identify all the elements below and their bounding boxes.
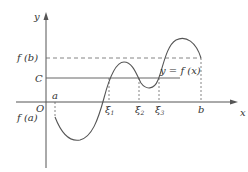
xi1-label: ξ1 (105, 104, 114, 116)
xi2-label: ξ2 (135, 104, 145, 116)
y-axis-label: y (33, 11, 40, 22)
curve-label: y = f (x) (159, 65, 201, 76)
fa-label: f (a) (16, 112, 38, 123)
x-axis-label: x (240, 107, 246, 118)
fb-label: f (b) (16, 52, 38, 63)
a-label: a (52, 90, 58, 101)
function-curve (55, 38, 201, 140)
function-diagram: y x O f (b) C f (a) a ξ1 ξ2 ξ3 b y = f (… (0, 0, 248, 172)
y-axis-arrow-icon (44, 12, 49, 20)
x-axis-arrow-icon (230, 100, 238, 105)
b-label: b (198, 104, 204, 115)
xi3-label: ξ3 (155, 104, 165, 116)
c-label: C (35, 73, 43, 84)
